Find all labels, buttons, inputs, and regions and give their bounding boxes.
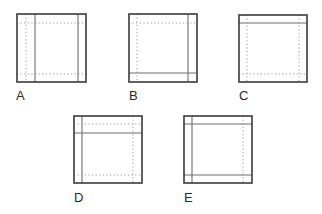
outer-square	[184, 116, 252, 183]
outer-square	[129, 14, 197, 82]
figure-label: D	[74, 190, 83, 205]
figure-d: D	[74, 116, 142, 205]
outer-square	[17, 14, 86, 82]
diagram-canvas: ABCDE	[0, 0, 322, 214]
figure-label: B	[129, 88, 138, 103]
figure-b: B	[129, 14, 197, 103]
figure-label: C	[239, 88, 248, 103]
outer-square	[239, 15, 307, 82]
outer-square	[74, 116, 142, 183]
figure-group: ABCDE	[16, 14, 307, 205]
figure-e: E	[184, 116, 252, 205]
figure-label: E	[184, 190, 193, 205]
figure-label: A	[16, 88, 25, 103]
figure-a: A	[16, 14, 86, 103]
figure-c: C	[239, 15, 307, 103]
